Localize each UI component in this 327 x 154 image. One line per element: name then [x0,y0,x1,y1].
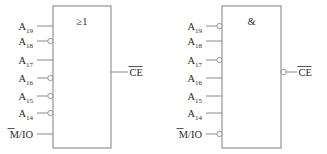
gate-input: A19 [187,21,222,35]
input-inversion-bubble [217,131,222,136]
input-signal-label: A19 [18,21,33,35]
gate-input: A18 [187,36,222,50]
diagram-canvas: ≥1A19A18A17A16A15A14M/IOCE&A19A18A17A16A… [0,0,327,154]
gate-body-rect [222,6,281,148]
input-signal-label: A16 [18,73,33,87]
input-signal-label: A15 [187,91,202,105]
input-inversion-bubble [217,23,222,28]
input-signal-label: A17 [187,55,202,69]
input-inversion-bubble [48,110,53,115]
gate-input: A15 [18,91,53,105]
gate-input: A14 [18,108,53,122]
gate-body-rect [53,6,111,148]
gate-input: A15 [187,91,222,105]
or-gate: ≥1A19A18A17A16A15A14M/IOCE [8,6,144,148]
and-gate: &A19A18A17A16A15A14M/IOCE [177,6,313,148]
input-signal-label: M/IO [10,129,34,140]
input-inversion-bubble [48,93,53,98]
logic-diagram-svg: ≥1A19A18A17A16A15A14M/IOCE&A19A18A17A16A… [0,0,327,154]
input-signal-label: A16 [187,73,202,87]
gate-input: A14 [187,108,222,122]
ampersand-and-symbol: & [247,16,255,27]
input-signal-label: A14 [18,108,33,122]
gate-input: A17 [187,55,222,69]
input-signal-label: M/IO [179,129,203,140]
gate-input: A16 [187,73,222,87]
input-inversion-bubble [217,57,222,62]
gate-output: CE [281,67,312,78]
gate-output: CE [111,67,143,78]
gate-input: A17 [18,55,53,69]
input-signal-label: A14 [187,108,202,122]
input-signal-label: A15 [18,91,33,105]
output-signal-label: CE [299,67,312,78]
output-inversion-bubble [281,69,286,74]
input-signal-label: A18 [18,36,33,50]
gate-input: M/IO [177,129,222,140]
input-signal-label: A18 [187,36,202,50]
gate-input: A18 [18,36,53,50]
gate-input: M/IO [8,129,54,140]
input-signal-label: A19 [187,21,202,35]
output-signal-label: CE [130,67,143,78]
gate-input: A16 [18,73,53,87]
input-signal-label: A17 [18,55,33,69]
input-inversion-bubble [48,38,53,43]
greater-or-equal-one-symbol: ≥1 [76,16,87,27]
gate-input: A19 [18,21,53,35]
input-inversion-bubble [48,75,53,80]
